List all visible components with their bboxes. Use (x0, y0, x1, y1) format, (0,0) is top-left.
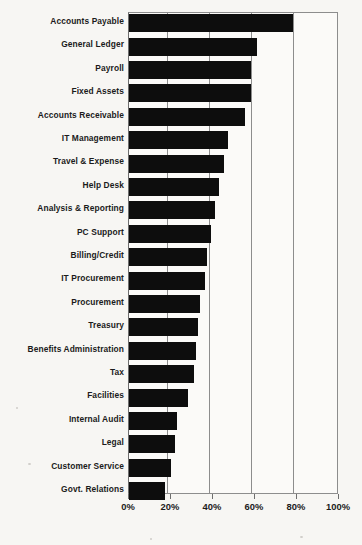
scan-speck (28, 463, 31, 465)
category-label: Treasury (0, 320, 124, 330)
category-label: IT Management (0, 133, 124, 143)
category-label: Customer Service (0, 461, 124, 471)
bar (129, 459, 171, 477)
x-axis-tick-label: 60% (231, 501, 277, 512)
category-label: Analysis & Reporting (0, 203, 124, 213)
bar-row: Travel & Expense (0, 152, 362, 175)
bar-row: IT Management (0, 129, 362, 152)
category-label: Accounts Receivable (0, 110, 124, 120)
bar-rows: Accounts PayableGeneral LedgerPayrollFix… (0, 12, 362, 494)
category-label: General Ledger (0, 39, 124, 49)
bar-row: Benefits Administration (0, 340, 362, 363)
bar (129, 84, 251, 102)
bar (129, 14, 293, 32)
x-axis-tick-label: 40% (189, 501, 235, 512)
bar-row: Help Desk (0, 176, 362, 199)
category-label: Travel & Expense (0, 156, 124, 166)
bar (129, 318, 198, 336)
bar (129, 225, 211, 243)
bar-row: Facilities (0, 386, 362, 409)
bar (129, 131, 228, 149)
bar (129, 365, 194, 383)
scan-speck (300, 536, 303, 538)
category-label: Procurement (0, 297, 124, 307)
x-axis-tick (254, 494, 255, 499)
category-label: Benefits Administration (0, 344, 124, 354)
bar-row: Treasury (0, 316, 362, 339)
category-label: Internal Audit (0, 414, 124, 424)
category-label: Govt. Relations (0, 484, 124, 494)
bar (129, 482, 165, 500)
bar-row: Fixed Assets (0, 82, 362, 105)
bar-row: Payroll (0, 59, 362, 82)
bar-row: Accounts Receivable (0, 106, 362, 129)
bar (129, 108, 245, 126)
bar (129, 295, 200, 313)
x-axis-tick (128, 494, 129, 499)
category-label: IT Procurement (0, 273, 124, 283)
scan-speck (150, 538, 152, 540)
category-label: Fixed Assets (0, 86, 124, 96)
bar-row: IT Procurement (0, 269, 362, 292)
bar-row: Customer Service (0, 457, 362, 480)
bar (129, 201, 215, 219)
bar (129, 38, 257, 56)
bar (129, 389, 188, 407)
bar (129, 61, 251, 79)
bar (129, 435, 175, 453)
x-axis-tick-label: 20% (147, 501, 193, 512)
bar (129, 272, 205, 290)
category-label: Tax (0, 367, 124, 377)
bar (129, 155, 224, 173)
bar-row: Internal Audit (0, 410, 362, 433)
category-label: Help Desk (0, 180, 124, 190)
bar (129, 342, 196, 360)
category-label: Legal (0, 437, 124, 447)
category-label: PC Support (0, 227, 124, 237)
chart-page: Accounts PayableGeneral LedgerPayrollFix… (0, 0, 362, 545)
bar-row: PC Support (0, 223, 362, 246)
x-axis-tick (338, 494, 339, 499)
bar-row: Analysis & Reporting (0, 199, 362, 222)
x-axis-tick (212, 494, 213, 499)
bar (129, 412, 177, 430)
bar-row: Procurement (0, 293, 362, 316)
bar-row: General Ledger (0, 35, 362, 58)
x-axis-tick-label: 0% (105, 501, 151, 512)
category-label: Facilities (0, 390, 124, 400)
x-axis-tick (170, 494, 171, 499)
x-axis-tick-label: 80% (273, 501, 319, 512)
bar (129, 248, 207, 266)
bar-row: Legal (0, 433, 362, 456)
bar-row: Accounts Payable (0, 12, 362, 35)
bar-row: Billing/Credit (0, 246, 362, 269)
x-axis-tick (296, 494, 297, 499)
scan-speck (16, 407, 18, 409)
category-label: Payroll (0, 63, 124, 73)
bar-row: Govt. Relations (0, 480, 362, 503)
bar (129, 178, 219, 196)
category-label: Billing/Credit (0, 250, 124, 260)
bar-row: Tax (0, 363, 362, 386)
category-label: Accounts Payable (0, 16, 124, 26)
x-axis-tick-label: 100% (315, 501, 361, 512)
